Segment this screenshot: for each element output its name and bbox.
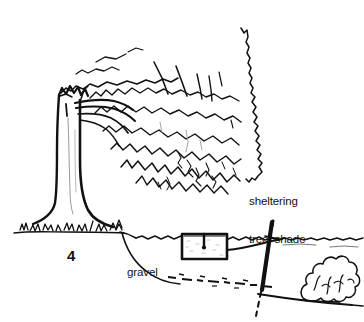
gravel-dash-6 [235, 283, 245, 284]
figure-number-label: 4 [67, 250, 75, 263]
trough-valve-float [202, 245, 206, 249]
sheltering-label-line2: tree, shade [249, 233, 305, 246]
gravel-dash-2 [182, 279, 192, 280]
sheltering-label-line1: sheltering [249, 195, 305, 208]
gravel-dash-1 [168, 277, 176, 278]
gravel-dash-3 [197, 280, 203, 281]
gravel-speck-1 [179, 274, 184, 275]
gravel-dash-4 [208, 281, 219, 282]
gravel-label: gravel [127, 266, 158, 279]
gravel-speck-2 [200, 276, 205, 277]
trunk-bark-notch [66, 104, 67, 116]
gravel-speck-4 [243, 280, 248, 281]
gravel-dash-5 [224, 282, 230, 283]
gravel-speck-3 [222, 278, 227, 279]
subgrade-right-end [352, 305, 363, 306]
figure-illustration: sheltering tree, shade gravel 4 [0, 0, 364, 322]
line-drawing-canvas [0, 0, 364, 322]
sheltering-tree-shade-label: sheltering tree, shade [249, 170, 305, 270]
water-trough [182, 234, 227, 259]
